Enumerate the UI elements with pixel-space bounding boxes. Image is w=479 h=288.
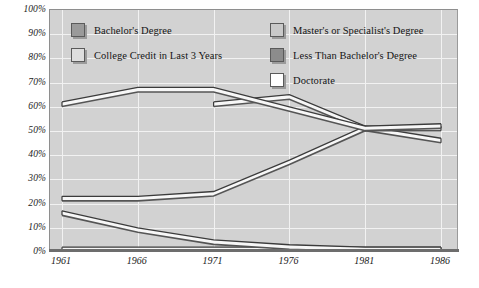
line-chart: 100%90%80%70%60%50%40%30%20%10%0% Bachel… (0, 0, 479, 288)
y-axis-tick-label: 50% (2, 125, 46, 135)
legend-label-less-than-bachelors-degree: Less Than Bachelor's Degree (293, 50, 417, 61)
y-axis-tick-label: 40% (2, 149, 46, 159)
series-line-bachelor-s-degree (62, 126, 441, 201)
legend-item-doctorate: Doctorate (270, 73, 335, 87)
y-axis: 100%90%80%70%60%50%40%30%20%10%0% (0, 0, 46, 288)
legend-swatch-masters-or-specialists-degree (270, 23, 284, 37)
legend-swatch-less-than-bachelors-degree (270, 48, 284, 62)
y-axis-tick-label: 30% (2, 173, 46, 183)
y-axis-tick-label: 70% (2, 77, 46, 87)
series-line-college-credit-in-last-3-years (62, 211, 441, 251)
x-axis-tick-label: 1976 (256, 255, 320, 267)
y-axis-tick-label: 10% (2, 222, 46, 232)
x-axis-tick-label: 1981 (332, 255, 396, 267)
y-axis-tick-label: 20% (2, 198, 46, 208)
legend-label-masters-or-specialists-degree: Master's or Specialist's Degree (293, 25, 423, 36)
y-axis-tick-label: 100% (2, 4, 46, 14)
series-line-less-than-bachelor-s-degree (62, 87, 441, 130)
plot-area (49, 9, 458, 251)
y-axis-tick-label: 80% (2, 52, 46, 62)
x-axis-line (49, 249, 459, 252)
legend-swatch-bachelors-degree (71, 23, 85, 37)
legend-item-college-credit: College Credit in Last 3 Years (71, 48, 222, 62)
x-axis-tick-label: 1961 (29, 255, 93, 267)
x-axis-tick-label: 1966 (105, 255, 169, 267)
y-axis-tick-label: 60% (2, 101, 46, 111)
legend-label-doctorate: Doctorate (293, 75, 335, 86)
legend-label-college-credit: College Credit in Last 3 Years (94, 50, 222, 61)
y-axis-tick-label: 90% (2, 28, 46, 38)
x-axis-tick-label: 1971 (181, 255, 245, 267)
legend-swatch-college-credit (71, 48, 85, 62)
legend-label-bachelors-degree: Bachelor's Degree (94, 25, 172, 36)
x-axis-tick-label: 1986 (408, 255, 472, 267)
legend-item-masters-or-specialists-degree: Master's or Specialist's Degree (270, 23, 423, 37)
legend-item-less-than-bachelors-degree: Less Than Bachelor's Degree (270, 48, 417, 62)
legend-swatch-doctorate (270, 73, 284, 87)
legend-item-bachelors-degree: Bachelor's Degree (71, 23, 172, 37)
data-series-lines (50, 10, 458, 251)
